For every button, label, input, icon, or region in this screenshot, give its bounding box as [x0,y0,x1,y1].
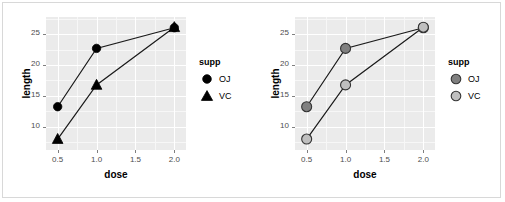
series-line-vc [58,27,175,139]
data-point-vc [91,79,102,89]
data-point-oj [302,102,312,112]
data-point-vc [341,80,351,90]
chart-page: 101520250.51.01.52.0doselengthsuppOJVC 1… [0,0,505,202]
legend-label: VC [219,91,232,101]
legend-item-oj[interactable]: OJ [448,71,481,88]
legend-key-circle-icon [448,88,464,104]
data-point-vc [302,134,312,144]
legend-item-vc[interactable]: VC [199,88,232,105]
legend: suppOJVC [448,57,481,105]
legend-label: VC [468,91,481,101]
legend: suppOJVC [199,57,232,105]
data-point-oj [92,44,100,52]
legend-key-triangle-icon [199,88,215,104]
legend-label: OJ [219,74,231,84]
legend-item-oj[interactable]: OJ [199,71,232,88]
data-point-oj [53,103,61,111]
data-point-vc [52,133,63,143]
chart-panel-left: 101520250.51.01.52.0doselengthsuppOJVC [4,0,252,202]
data-point-oj [341,43,351,53]
legend-key-circle-icon [199,71,215,87]
legend-label: OJ [468,74,480,84]
data-point-vc [418,22,428,32]
legend-title: supp [199,57,232,67]
series-line-vc [307,27,424,139]
legend-key-circle-icon [448,71,464,87]
chart-panel-right: 101520250.51.01.52.0doselengthsuppOJVC [253,0,501,202]
legend-title: supp [448,57,481,67]
legend-item-vc[interactable]: VC [448,88,481,105]
